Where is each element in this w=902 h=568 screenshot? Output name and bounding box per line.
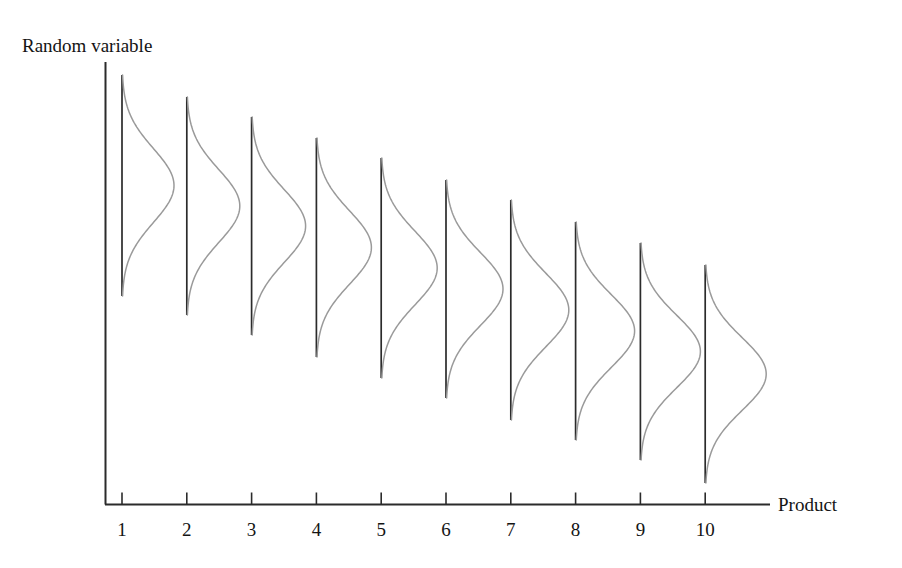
distribution-curve xyxy=(511,200,568,420)
distribution-curve xyxy=(706,265,766,483)
x-axis-tick-labels: 12345678910 xyxy=(117,519,714,540)
x-axis-tick-label: 4 xyxy=(312,519,322,540)
x-axis-tick-label: 10 xyxy=(696,519,715,540)
distribution-curves xyxy=(123,75,767,483)
distribution-curve xyxy=(317,138,371,357)
x-axis-tick-label: 7 xyxy=(506,519,516,540)
distribution-curve xyxy=(641,243,700,460)
x-axis-label: Product xyxy=(778,494,838,515)
x-axis-tick-label: 5 xyxy=(376,519,386,540)
distribution-chart: Random variable Product 12345678910 xyxy=(0,0,902,568)
x-axis-tick-label: 6 xyxy=(441,519,451,540)
distribution-curve xyxy=(447,180,503,398)
x-axis-tick-label: 3 xyxy=(247,519,257,540)
x-axis-tick-label: 8 xyxy=(571,519,581,540)
distribution-curve xyxy=(252,117,305,335)
distribution-curve xyxy=(576,222,634,440)
y-axis-label: Random variable xyxy=(22,35,152,56)
x-axis-tick-label: 2 xyxy=(182,519,192,540)
distribution-curve xyxy=(382,158,437,378)
distribution-baselines xyxy=(122,75,705,483)
x-axis-tick-label: 9 xyxy=(636,519,646,540)
x-axis-tick-label: 1 xyxy=(117,519,127,540)
distribution-curve xyxy=(187,97,239,315)
x-axis-ticks xyxy=(122,493,705,505)
distribution-curve xyxy=(123,75,174,296)
chart-figure: Random variable Product 12345678910 xyxy=(0,0,902,568)
